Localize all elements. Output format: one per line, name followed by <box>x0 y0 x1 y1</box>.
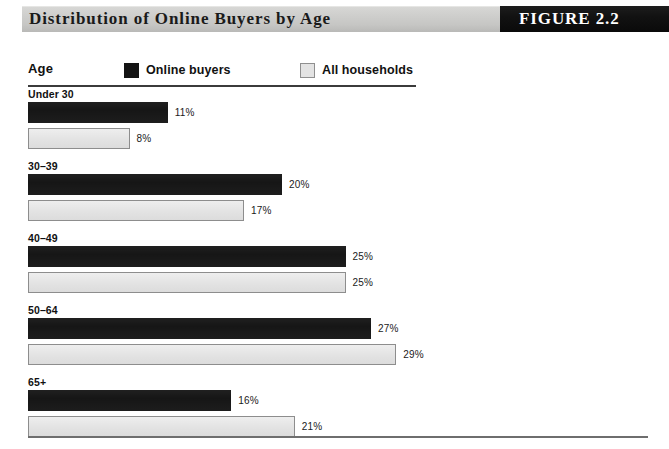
legend-item-online-buyers: Online buyers <box>124 60 231 80</box>
figure-number-band: FIGURE 2.2 <box>500 6 669 32</box>
bar-online-buyers <box>28 246 346 267</box>
bar-row-online-buyers: 25% <box>28 246 648 267</box>
chart-group: 40–49 25% 25% <box>28 232 648 293</box>
bar-value-label: 8% <box>137 133 152 144</box>
category-label: Under 30 <box>28 88 648 101</box>
page-title: Distribution of Online Buyers by Age <box>22 9 331 29</box>
bar-row-online-buyers: 11% <box>28 102 648 123</box>
bar-row-all-households: 8% <box>28 128 648 149</box>
bar-online-buyers <box>28 174 282 195</box>
bar-row-online-buyers: 20% <box>28 174 648 195</box>
bar-online-buyers <box>28 318 371 339</box>
bar-value-label: 11% <box>175 107 195 118</box>
bar-row-online-buyers: 27% <box>28 318 648 339</box>
bar-row-all-households: 21% <box>28 416 648 437</box>
dark-square-icon <box>124 63 139 78</box>
bar-value-label: 29% <box>403 349 424 360</box>
figure-bottom-divider <box>28 436 648 438</box>
bar-online-buyers <box>28 102 168 123</box>
axis-label-age: Age <box>28 61 53 76</box>
bar-online-buyers <box>28 390 231 411</box>
chart-legend: Age Online buyers All households <box>28 60 416 82</box>
bar-value-label: 27% <box>378 323 399 334</box>
legend-item-label: All households <box>322 63 413 77</box>
figure-number-label: FIGURE 2.2 <box>500 9 620 29</box>
category-label: 40–49 <box>28 232 648 245</box>
bar-value-label: 21% <box>302 421 323 432</box>
chart-group: 65+ 16% 21% <box>28 376 648 437</box>
legend-item-label: Online buyers <box>146 63 231 77</box>
figure-header-banner: Distribution of Online Buyers by Age FIG… <box>22 6 669 32</box>
legend-item-all-households: All households <box>300 60 413 80</box>
chart-group: 50–64 27% 29% <box>28 304 648 365</box>
bar-chart: Under 30 11% 8% 30–39 20% 17% 40–49 25% … <box>28 88 648 448</box>
bar-value-label: 25% <box>353 251 374 262</box>
bar-row-all-households: 29% <box>28 344 648 365</box>
bar-value-label: 16% <box>238 395 259 406</box>
bar-row-online-buyers: 16% <box>28 390 648 411</box>
bar-value-label: 25% <box>353 277 374 288</box>
light-square-icon <box>300 63 315 78</box>
figure-title-band: Distribution of Online Buyers by Age <box>22 6 500 32</box>
bar-all-households <box>28 344 396 365</box>
bar-row-all-households: 17% <box>28 200 648 221</box>
bar-all-households <box>28 128 130 149</box>
legend-divider <box>28 85 416 87</box>
bar-all-households <box>28 272 346 293</box>
bar-all-households <box>28 200 244 221</box>
category-label: 50–64 <box>28 304 648 317</box>
bar-all-households <box>28 416 295 437</box>
category-label: 65+ <box>28 376 648 389</box>
bar-value-label: 17% <box>251 205 272 216</box>
bar-row-all-households: 25% <box>28 272 648 293</box>
category-label: 30–39 <box>28 160 648 173</box>
chart-group: 30–39 20% 17% <box>28 160 648 221</box>
chart-group: Under 30 11% 8% <box>28 88 648 149</box>
bar-value-label: 20% <box>289 179 310 190</box>
